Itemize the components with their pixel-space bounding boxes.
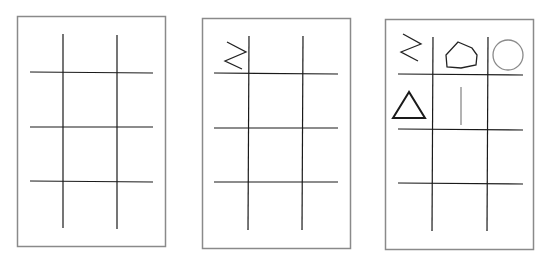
- figure-canvas: [0, 0, 547, 260]
- card-border: [386, 20, 534, 250]
- card-border: [203, 19, 351, 249]
- panel-3: [386, 20, 534, 250]
- panel-1: [18, 17, 166, 247]
- panel-2: [203, 19, 351, 249]
- card-border: [18, 17, 166, 247]
